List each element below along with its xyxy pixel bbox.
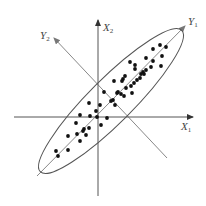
data-point bbox=[151, 47, 155, 51]
data-point bbox=[81, 129, 85, 133]
data-point bbox=[142, 72, 146, 76]
data-point bbox=[160, 54, 164, 58]
data-point bbox=[88, 114, 92, 118]
data-point bbox=[133, 67, 137, 71]
data-point bbox=[99, 123, 103, 127]
data-point bbox=[112, 79, 116, 83]
data-point bbox=[102, 90, 106, 94]
data-point bbox=[124, 86, 128, 90]
pca-diagram: X2 Y1 Y2 X1 bbox=[0, 0, 206, 206]
data-point bbox=[120, 79, 124, 83]
data-point bbox=[56, 154, 60, 158]
data-point bbox=[129, 84, 133, 88]
data-point bbox=[84, 133, 88, 137]
data-point bbox=[132, 81, 136, 85]
x1-axis-label: X1 bbox=[181, 121, 191, 134]
data-point bbox=[158, 43, 162, 47]
y2-axis bbox=[54, 38, 167, 158]
y2-axis-label: Y2 bbox=[40, 30, 50, 43]
data-point bbox=[66, 134, 70, 138]
data-point bbox=[78, 113, 82, 117]
data-point bbox=[115, 91, 119, 95]
data-point bbox=[75, 132, 79, 136]
data-point bbox=[113, 103, 117, 107]
y1-axis-label: Y1 bbox=[188, 16, 198, 29]
data-point bbox=[54, 149, 58, 153]
data-point bbox=[95, 115, 99, 119]
data-point bbox=[122, 94, 126, 98]
data-point bbox=[66, 148, 70, 152]
data-point bbox=[159, 64, 163, 68]
data-point bbox=[133, 63, 137, 67]
data-point bbox=[105, 116, 109, 120]
data-point bbox=[144, 56, 148, 60]
x2-axis-label: X2 bbox=[103, 22, 113, 35]
data-point bbox=[135, 78, 139, 82]
data-point bbox=[128, 60, 132, 64]
data-point bbox=[78, 139, 82, 143]
data-point bbox=[74, 121, 78, 125]
data-point bbox=[149, 65, 153, 69]
data-point bbox=[109, 99, 113, 103]
data-point bbox=[164, 45, 168, 49]
data-point bbox=[130, 91, 134, 95]
data-point bbox=[87, 101, 91, 105]
data-point bbox=[94, 109, 98, 113]
data-point bbox=[151, 59, 155, 63]
data-point bbox=[87, 126, 91, 130]
data-point bbox=[98, 103, 102, 107]
